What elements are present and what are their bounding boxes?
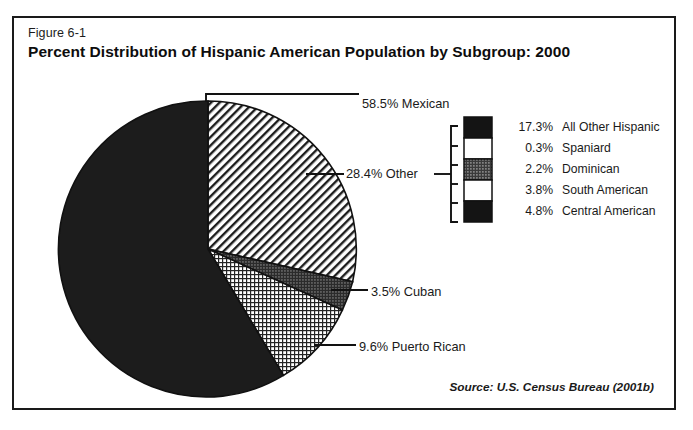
slice-label-mexican: 58.5% Mexican: [362, 96, 450, 111]
legend: 17.3% All Other Hispanic 0.3% Spaniard 2…: [463, 116, 663, 220]
legend-name-all-other-hispanic: All Other Hispanic: [562, 120, 660, 134]
legend-name-central-american: Central American: [562, 204, 655, 218]
legend-item-all-other-hispanic: 17.3% All Other Hispanic: [515, 117, 660, 137]
legend-name-dominican: Dominican: [562, 162, 620, 176]
legend-pct-dominican: 2.2%: [515, 162, 553, 176]
legend-name-spaniard: Spaniard: [562, 141, 611, 155]
legend-pct-south-american: 3.8%: [515, 183, 553, 197]
figure-frame: Figure 6-1 Percent Distribution of Hispa…: [12, 16, 676, 410]
legend-pct-central-american: 4.8%: [515, 204, 553, 218]
legend-item-spaniard: 0.3% Spaniard: [515, 138, 611, 158]
leader-line-mexican: [206, 94, 359, 101]
slice-label-other: 28.4% Other: [346, 166, 418, 181]
slice-label-puerto-rican: 9.6% Puerto Rican: [359, 339, 466, 354]
slice-label-cuban: 3.5% Cuban: [371, 284, 441, 299]
legend-item-dominican: 2.2% Dominican: [515, 159, 620, 179]
pie-slices: [58, 101, 356, 397]
legend-name-south-american: South American: [562, 183, 648, 197]
legend-item-central-american: 4.8% Central American: [515, 201, 655, 221]
legend-bracket: [451, 126, 458, 222]
source-note: Source: U.S. Census Bureau (2001b): [449, 380, 654, 394]
legend-pct-spaniard: 0.3%: [515, 141, 553, 155]
legend-item-south-american: 3.8% South American: [515, 180, 648, 200]
legend-pct-all-other-hispanic: 17.3%: [515, 120, 553, 134]
